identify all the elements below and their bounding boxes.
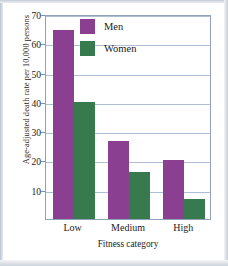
- bar-low-women: [74, 102, 95, 219]
- x-label-medium: Medium: [111, 222, 145, 233]
- legend-label-men: Men: [104, 21, 123, 32]
- bar-medium-women: [129, 172, 150, 219]
- bar-medium-men: [108, 141, 129, 219]
- bar-high-women: [184, 199, 205, 220]
- x-axis-title: Fitness category: [45, 239, 211, 249]
- y-tick-label: 30: [19, 127, 41, 138]
- page-edge-bottom: [0, 260, 228, 266]
- y-axis-tick-labels: 70605040302010: [13, 3, 41, 260]
- x-axis-category-labels: LowMediumHigh: [45, 222, 211, 238]
- y-tick-label: 50: [19, 68, 41, 79]
- page-edge-right: [224, 0, 228, 266]
- scanned-page-frame: Age-adjusted death rate per 10,000 perso…: [0, 0, 228, 266]
- bar-high-men: [163, 160, 184, 219]
- y-tick-label: 10: [19, 185, 41, 196]
- bar-chart-figure: Age-adjusted death rate per 10,000 perso…: [3, 3, 224, 260]
- chart-legend: MenWomen: [80, 15, 162, 59]
- legend-swatch-men: [80, 19, 95, 34]
- legend-item-women: Women: [80, 37, 162, 59]
- legend-item-men: Men: [80, 15, 162, 37]
- y-tick-label: 20: [19, 156, 41, 167]
- bar-low-men: [53, 30, 74, 219]
- y-tick-label: 60: [19, 39, 41, 50]
- y-tick-label: 40: [19, 97, 41, 108]
- y-tick-label: 70: [19, 10, 41, 21]
- legend-label-women: Women: [104, 43, 136, 54]
- legend-swatch-women: [80, 41, 95, 56]
- bar-group: [163, 16, 205, 219]
- x-label-high: High: [173, 222, 193, 233]
- x-label-low: Low: [63, 222, 81, 233]
